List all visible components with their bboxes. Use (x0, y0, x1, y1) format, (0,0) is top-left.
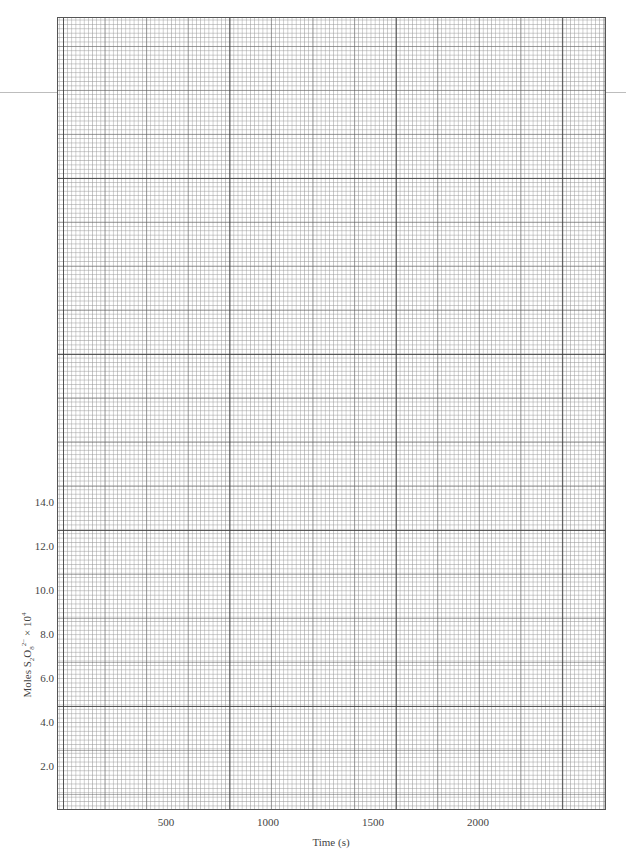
x-tick-1500: 1500 (362, 816, 384, 828)
y-tick-4: 4.0 (40, 716, 54, 728)
y-tick-14: 14.0 (35, 496, 54, 508)
x-axis-title: Time (s) (312, 836, 349, 848)
graph-paper-grid (57, 17, 606, 810)
y-tick-10: 10.0 (35, 584, 54, 596)
y-tick-2: 2.0 (40, 760, 54, 772)
y-axis-title: Moles S2O82− × 104 (20, 613, 36, 698)
y-tick-6: 6.0 (40, 672, 54, 684)
y-tick-12: 12.0 (35, 540, 54, 552)
x-tick-1000: 1000 (257, 816, 279, 828)
x-tick-500: 500 (158, 816, 175, 828)
x-tick-2000: 2000 (467, 816, 489, 828)
y-tick-8: 8.0 (40, 628, 54, 640)
